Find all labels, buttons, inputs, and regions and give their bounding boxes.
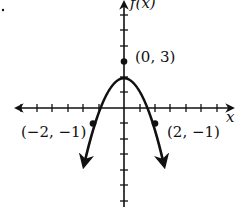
vertex-point [121, 58, 128, 65]
x-axis-label: x [226, 108, 235, 126]
right-point [152, 120, 159, 127]
vertex-label: (0, 3) [135, 48, 175, 66]
right-point-label: (2, −1) [167, 123, 220, 141]
left-point [90, 120, 97, 127]
left-point-label: (−2, −1) [21, 123, 86, 141]
y-axis-label: f(x) [129, 0, 156, 12]
parabola-graph: f(x) x (0, 3) (−2, −1) (2, −1) [0, 0, 245, 207]
stray-mark [2, 9, 4, 11]
